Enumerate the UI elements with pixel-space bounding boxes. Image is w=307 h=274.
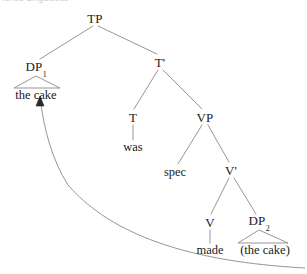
tree-node-tp: TP [87,12,103,25]
tree-node-vbar-label: V' [225,163,237,178]
tree-node-v: V [205,216,215,229]
branch-vp-to-spec [178,125,202,164]
tree-node-spec-label: spec [164,165,186,179]
tree-node-dp2: DP2 [248,214,269,231]
tree-node-dp1-label: DP [25,59,42,74]
tree-node-dp1: DP1 [25,60,46,77]
tree-node-made-label: made [196,243,223,257]
tree-node-vp: VP [196,111,213,124]
tree-node-t: T [129,111,137,124]
tree-node-tbar-label: T' [155,55,166,70]
tree-node-tbar: T' [155,56,166,69]
tree-node-thecake2-label: (the cake) [240,243,290,257]
tree-node-dp2-subscript: 2 [266,223,270,232]
tree-node-made: made [196,244,223,257]
tree-node-t-label: T [129,110,137,125]
tree-node-dp2-label: DP [248,213,265,228]
branch-tp-to-dp1 [40,26,93,59]
tree-node-thecake1-label: the cake [15,88,56,102]
tree-node-spec: spec [164,166,186,179]
branch-tp-to-tbar [98,26,157,54]
branch-vbar-to-dp2 [234,178,256,214]
tree-node-was: was [123,141,142,154]
tree-lines-layer [0,0,307,274]
branch-vbar-to-v [211,178,229,214]
tree-node-was-label: was [123,140,142,154]
syntax-tree-diagram: Tense Linguistics TPDP1T'the cakeTVPwass… [0,0,307,274]
tree-node-vp-label: VP [196,110,213,125]
tree-node-v-label: V [205,215,215,230]
phrase-triangle-1 [14,76,60,88]
tree-node-thecake1: the cake [15,89,56,102]
branch-lines [40,26,256,243]
tree-node-tp-label: TP [87,11,103,26]
tree-node-vbar: V' [225,164,237,177]
tree-node-dp1-subscript: 1 [43,69,47,78]
branch-tbar-to-vp [163,70,202,109]
phrase-triangle-2 [238,230,288,243]
tree-node-thecake2: (the cake) [240,244,290,257]
branch-tbar-to-t [134,70,158,109]
branch-vp-to-vbar [208,125,229,162]
